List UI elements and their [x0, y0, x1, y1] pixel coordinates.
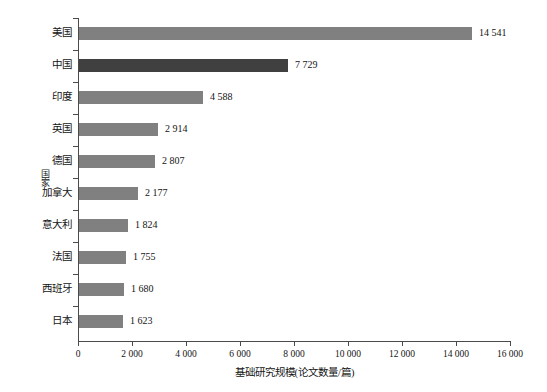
x-axis-tick-label: 6 000	[229, 348, 250, 360]
bar-value-label: 2 914	[165, 122, 188, 136]
bar-value-label: 1 824	[135, 218, 158, 232]
y-axis-tick	[73, 210, 78, 211]
category-label: 日本	[0, 314, 72, 328]
bar-row: 日本1 623	[78, 306, 510, 338]
bar-value-label: 4 588	[210, 90, 233, 104]
y-axis-tick	[73, 50, 78, 51]
bar-value-label: 2 807	[162, 154, 185, 168]
bar-row: 加拿大2 177	[78, 178, 510, 210]
x-axis-tick	[78, 341, 79, 346]
category-label: 加拿大	[0, 186, 72, 200]
bar-value-label: 1 755	[133, 250, 156, 264]
bar-value-label: 7 729	[295, 58, 318, 72]
y-axis-tick	[73, 274, 78, 275]
y-axis-tick	[73, 242, 78, 243]
bar-row: 德国2 807	[78, 146, 510, 178]
x-axis-tick-label: 2 000	[121, 348, 142, 360]
x-axis-tick	[348, 341, 349, 346]
x-axis-tick-label: 12 000	[389, 348, 415, 360]
x-axis-tick-label: 0	[76, 348, 81, 360]
x-axis-tick	[132, 341, 133, 346]
bar	[79, 91, 203, 104]
y-axis-tick	[73, 178, 78, 179]
bar	[79, 315, 123, 328]
y-axis-tick	[73, 146, 78, 147]
bar-value-label: 2 177	[145, 186, 168, 200]
x-axis-tick	[294, 341, 295, 346]
bar	[79, 155, 155, 168]
bar	[79, 27, 472, 40]
bar-value-label: 1 680	[131, 282, 154, 296]
x-axis-tick-label: 8 000	[283, 348, 304, 360]
x-axis-tick-label: 4 000	[175, 348, 196, 360]
y-axis-tick	[73, 18, 78, 19]
category-label: 意大利	[0, 218, 72, 232]
category-label: 中国	[0, 58, 72, 72]
category-label: 英国	[0, 122, 72, 136]
x-axis-tick	[456, 341, 457, 346]
bar-row: 美国14 541	[78, 18, 510, 50]
bar	[79, 219, 128, 232]
x-axis-title: 基础研究规模(论文数量/篇)	[78, 366, 511, 380]
y-axis-tick	[73, 114, 78, 115]
plot-area: 美国14 541中国7 729印度4 588英国2 914德国2 807加拿大2…	[78, 18, 510, 341]
x-axis-tick	[240, 341, 241, 346]
x-axis-tick	[402, 341, 403, 346]
x-axis-tick-label: 14 000	[443, 348, 469, 360]
x-axis-tick-label: 16 000	[497, 348, 523, 360]
category-label: 德国	[0, 154, 72, 168]
bar-value-label: 1 623	[130, 314, 153, 328]
bar	[79, 187, 138, 200]
bar-row: 西班牙1 680	[78, 274, 510, 306]
category-label: 印度	[0, 90, 72, 104]
bar-row: 印度4 588	[78, 82, 510, 114]
x-axis-tick	[510, 341, 511, 346]
category-label: 美国	[0, 26, 72, 40]
bar	[79, 251, 126, 264]
bar	[79, 283, 124, 296]
bar-chart: 国家 美国14 541中国7 729印度4 588英国2 914德国2 807加…	[0, 0, 547, 392]
x-axis-tick	[186, 341, 187, 346]
bar-row: 英国2 914	[78, 114, 510, 146]
bar-value-label: 14 541	[479, 26, 507, 40]
bar	[79, 59, 288, 72]
category-label: 法国	[0, 250, 72, 264]
bar-row: 意大利1 824	[78, 210, 510, 242]
category-label: 西班牙	[0, 282, 72, 296]
y-axis-tick	[73, 306, 78, 307]
y-axis-tick	[73, 82, 78, 83]
x-axis-tick-label: 10 000	[335, 348, 361, 360]
bar	[79, 123, 158, 136]
bar-row: 中国7 729	[78, 50, 510, 82]
bar-row: 法国1 755	[78, 242, 510, 274]
